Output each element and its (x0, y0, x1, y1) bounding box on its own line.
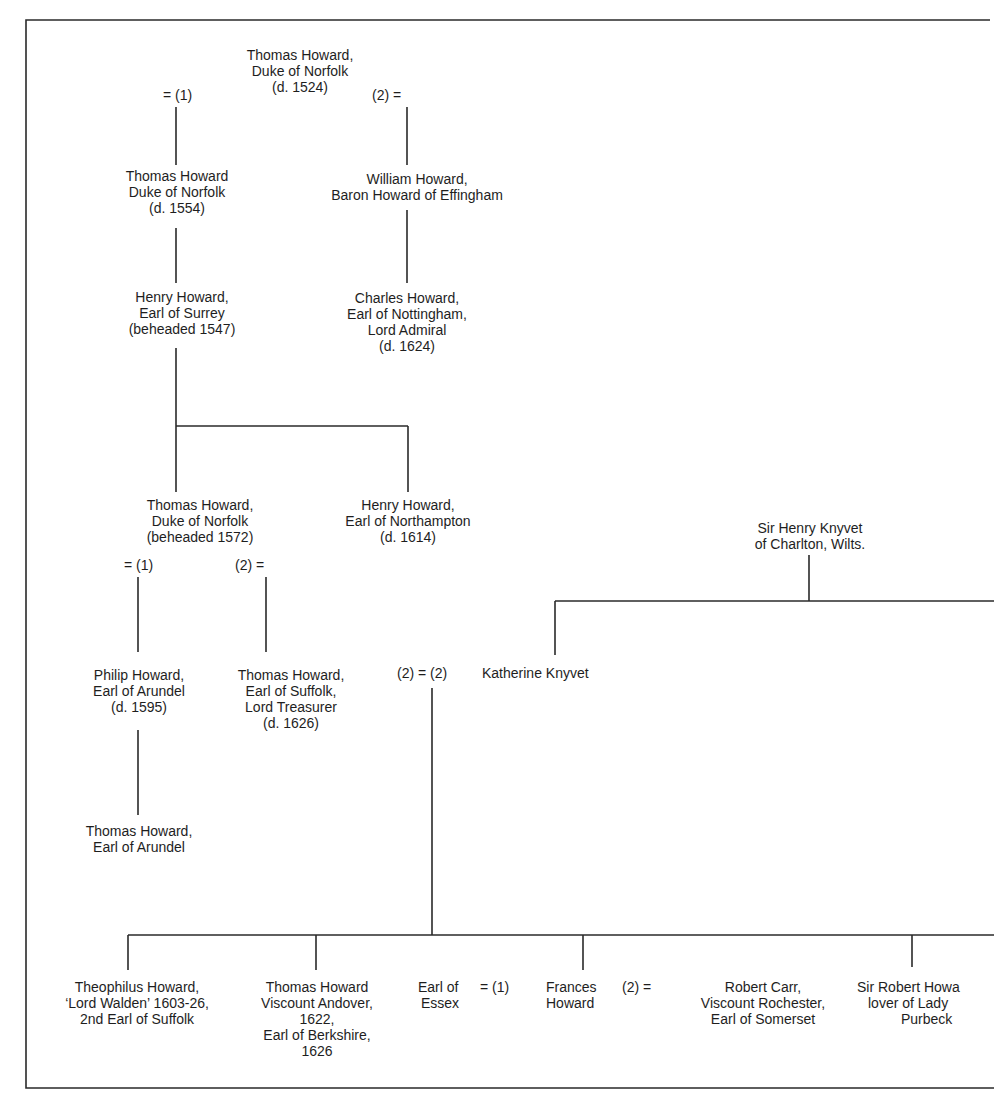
date-line: (d. 1524) (247, 79, 354, 95)
person-robert-howard: Sir Robert Howa lover of Lady Purbeck (857, 979, 960, 1027)
title-line: lover of Lady (857, 995, 960, 1011)
person-thomas-howard-1524: Thomas Howard, Duke of Norfolk (d. 1524) (247, 47, 354, 95)
name-line: William Howard, (331, 171, 503, 187)
marriage-mark-essex-frances: = (1) (480, 979, 509, 995)
date-line: (d. 1554) (126, 200, 229, 216)
date-line: (d. 1626) (238, 715, 345, 731)
title-line: Lord Treasurer (238, 699, 345, 715)
title-line: Purbeck (857, 1011, 960, 1027)
name-line: Sir Robert Howa (857, 979, 960, 995)
person-robert-carr: Robert Carr, Viscount Rochester, Earl of… (701, 979, 825, 1027)
marriage-mark-root-1: = (1) (163, 87, 192, 103)
person-thomas-howard-andover: Thomas Howard Viscount Andover, 1622, Ea… (261, 979, 373, 1059)
name-line: Henry Howard, (345, 497, 470, 513)
title-line: Viscount Rochester, (701, 995, 825, 1011)
person-frances-howard: Frances Howard (546, 979, 597, 1011)
name-line: Thomas Howard (126, 168, 229, 184)
person-katherine-knyvet: Katherine Knyvet (482, 665, 589, 681)
date-line: (beheaded 1547) (129, 321, 236, 337)
title-line: Duke of Norfolk (247, 63, 354, 79)
name-line: Sir Henry Knyvet (755, 520, 865, 536)
date-line: 1626 (261, 1043, 373, 1059)
date-line: (d. 1624) (347, 338, 467, 354)
title-line: ‘Lord Walden’ 1603-26, (65, 995, 209, 1011)
name-line: Thomas Howard, (147, 497, 254, 513)
name-line: Thomas Howard, (247, 47, 354, 63)
title-line: Earl of Surrey (129, 305, 236, 321)
title-line: Lord Admiral (347, 322, 467, 338)
title-line: Earl of Berkshire, (261, 1027, 373, 1043)
title-line: Duke of Norfolk (147, 513, 254, 529)
name-line: Theophilus Howard, (65, 979, 209, 995)
date-line: (d. 1595) (93, 699, 185, 715)
person-henry-knyvet: Sir Henry Knyvet of Charlton, Wilts. (755, 520, 865, 552)
person-philip-howard: Philip Howard, Earl of Arundel (d. 1595) (93, 667, 185, 715)
name-line: Henry Howard, (129, 289, 236, 305)
name-line: Thomas Howard, (238, 667, 345, 683)
title-line: Duke of Norfolk (126, 184, 229, 200)
person-william-howard: William Howard, Baron Howard of Effingha… (331, 171, 503, 203)
marriage-mark-suffolk-knyvet: (2) = (2) (397, 665, 447, 681)
person-thomas-howard-arundel: Thomas Howard, Earl of Arundel (86, 823, 193, 855)
name-line: Robert Carr, (701, 979, 825, 995)
title-line: Earl of Suffolk, (238, 683, 345, 699)
title-line: Earl of Arundel (86, 839, 193, 855)
marriage-mark-frances-carr: (2) = (622, 979, 651, 995)
title-line: of Charlton, Wilts. (755, 536, 865, 552)
person-thomas-howard-1572: Thomas Howard, Duke of Norfolk (beheaded… (147, 497, 254, 545)
title-line: 2nd Earl of Suffolk (65, 1011, 209, 1027)
date-line: (d. 1614) (345, 529, 470, 545)
person-earl-of-essex: Earl of Essex (418, 979, 459, 1011)
date-line: 1622, (261, 1011, 373, 1027)
name-line: Charles Howard, (347, 290, 467, 306)
person-henry-howard-surrey: Henry Howard, Earl of Surrey (beheaded 1… (129, 289, 236, 337)
person-henry-howard-northampton: Henry Howard, Earl of Northampton (d. 16… (345, 497, 470, 545)
name-line: Frances (546, 979, 597, 995)
person-charles-howard: Charles Howard, Earl of Nottingham, Lord… (347, 290, 467, 354)
title-line: Viscount Andover, (261, 995, 373, 1011)
title-line: Earl of Somerset (701, 1011, 825, 1027)
title-line: Earl of Arundel (93, 683, 185, 699)
person-thomas-howard-suffolk: Thomas Howard, Earl of Suffolk, Lord Tre… (238, 667, 345, 731)
person-theophilus-howard: Theophilus Howard, ‘Lord Walden’ 1603-26… (65, 979, 209, 1027)
title-line: Earl of Nottingham, (347, 306, 467, 322)
name-line: Howard (546, 995, 597, 1011)
marriage-mark-root-2: (2) = (372, 87, 401, 103)
name-line: Earl of (418, 979, 459, 995)
name-line: Thomas Howard, (86, 823, 193, 839)
person-thomas-howard-1554: Thomas Howard Duke of Norfolk (d. 1554) (126, 168, 229, 216)
name-line: Philip Howard, (93, 667, 185, 683)
marriage-mark-norfolk-1: = (1) (124, 557, 153, 573)
marriage-mark-norfolk-2: (2) = (235, 557, 264, 573)
name-line: Essex (418, 995, 459, 1011)
title-line: Baron Howard of Effingham (331, 187, 503, 203)
title-line: Earl of Northampton (345, 513, 470, 529)
date-line: (beheaded 1572) (147, 529, 254, 545)
name-line: Thomas Howard (261, 979, 373, 995)
